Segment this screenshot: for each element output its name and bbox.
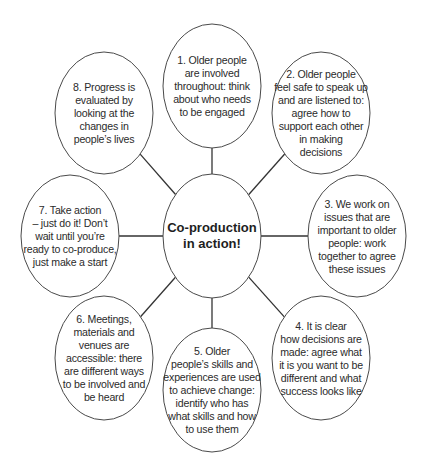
node-text-line: to be engaged: [179, 106, 244, 118]
node-text-line: wait until you’re: [34, 230, 105, 242]
node-text-line: to achieve change:: [169, 384, 254, 396]
connector-line-2: [249, 154, 285, 195]
node-8: 8. Progress isevaluated bylooking at the…: [55, 52, 153, 174]
node-text-line: different and what: [281, 372, 362, 384]
node-text-line: 8. Progress is: [73, 81, 135, 93]
node-text-line: changes in: [79, 120, 129, 132]
node-text-line: agree how to: [292, 107, 351, 119]
node-text-line: be heard: [84, 391, 125, 403]
node-text-line: issues that are: [324, 211, 390, 223]
node-text-line: ready to co-produce,: [23, 243, 116, 255]
node-text-line: materials and: [74, 326, 135, 338]
node-text-line: venues are: [79, 339, 130, 351]
node-text-line: experiences are used: [163, 371, 261, 383]
node-7: 7. Take action– just do it! Don’twait un…: [21, 175, 119, 297]
node-5: 5. Olderpeople’s skills andexperiences a…: [163, 328, 261, 452]
node-text-line: people’s skills and: [171, 358, 253, 370]
connector-line-4: [249, 277, 285, 317]
node-3: 3. We work onissues that areimportant to…: [308, 175, 406, 297]
node-text-line: feel safe to speak up: [274, 81, 368, 93]
node-text-line: it is you want to be: [279, 359, 363, 371]
node-2: 2. Older peoplefeel safe to speak upand …: [272, 52, 370, 174]
node-text-line: – just do it! Don’t: [32, 217, 107, 229]
connector-line-8: [140, 154, 175, 194]
co-production-diagram: 1. Older peopleare involvedthroughout: t…: [0, 0, 424, 472]
node-text-line: Co-production: [167, 220, 257, 235]
node-text-line: people’s lives: [74, 133, 135, 145]
node-text-line: to use them: [185, 423, 239, 435]
node-text-line: looking at the: [74, 107, 135, 119]
center-node: Co-productionin action!: [163, 174, 261, 298]
node-1: 1. Older peopleare involvedthroughout: t…: [163, 24, 261, 148]
node-text-line: important to older: [318, 224, 398, 236]
node-text-line: evaluated by: [75, 94, 134, 106]
node-text-line: 4. It is clear: [295, 320, 347, 332]
node-text-line: how decisions are: [280, 333, 362, 345]
node-text-line: accessible: there: [66, 352, 142, 364]
node-text-line: made: agree what: [280, 346, 362, 358]
node-4: 4. It is clearhow decisions aremade: agr…: [272, 296, 370, 420]
node-text-line: what skills and how: [167, 410, 256, 422]
node-6: 6. Meetings,materials andvenues areacces…: [55, 296, 153, 420]
node-text-line: throughout: think: [174, 80, 250, 92]
node-text-line: to be involved and: [63, 378, 146, 390]
node-text-line: in action!: [183, 236, 241, 251]
node-text-line: 1. Older people: [177, 54, 247, 66]
node-text-line: success looks like: [280, 385, 361, 397]
node-text-line: 5. Older: [194, 345, 231, 357]
node-text-line: these issues: [329, 263, 386, 275]
node-text-line: just make a start: [32, 256, 108, 268]
node-text-line: support each other: [279, 120, 364, 132]
node-text-line: are involved: [185, 67, 240, 79]
node-text-line: and are listened to:: [278, 94, 364, 106]
node-text-line: decisions: [300, 146, 342, 158]
node-text-line: people: work: [328, 237, 387, 249]
node-text-line: in making: [299, 133, 343, 145]
node-text-line: together to agree: [318, 250, 396, 262]
node-text-line: 6. Meetings,: [76, 313, 131, 325]
node-text-line: about who needs: [173, 93, 251, 105]
node-text-line: are different ways: [64, 365, 144, 377]
node-text-line: identify who has: [176, 397, 249, 409]
connector-line-6: [141, 277, 176, 316]
node-text-line: 7. Take action: [39, 204, 102, 216]
node-text-line: 2. Older people: [286, 68, 356, 80]
node-text-line: 3. We work on: [325, 198, 390, 210]
